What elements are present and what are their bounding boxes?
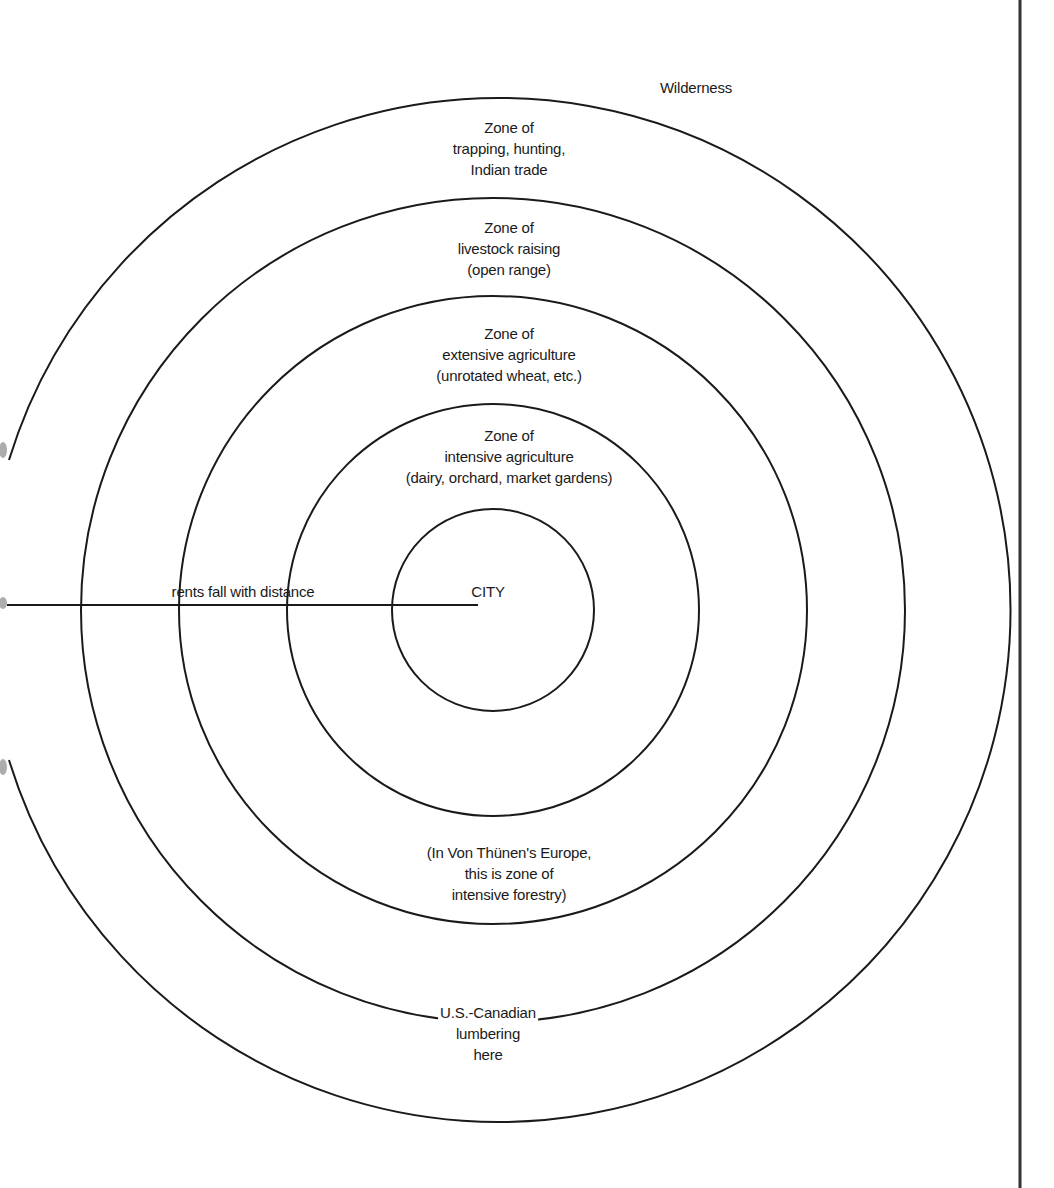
rents-axis-label: rents fall with distance [172,581,315,602]
lumbering-line-1: U.S.-Canadian [438,1002,538,1023]
livestock-zone-label: Zone of livestock raising (open range) [458,217,560,280]
extensive-zone-line-1: Zone of [436,323,581,344]
trapping-zone-label: Zone of trapping, hunting, Indian trade [453,117,565,180]
livestock-zone-line-1: Zone of [458,217,560,238]
trapping-zone-line-3: Indian trade [453,159,565,180]
trapping-zone-line-1: Zone of [453,117,565,138]
wilderness-label: Wilderness [660,77,732,98]
extensive-zone-label: Zone of extensive agriculture (unrotated… [436,323,581,386]
forestry-note-line-3: intensive forestry) [427,884,592,905]
livestock-zone-line-2: livestock raising [458,238,560,259]
trapping-zone-line-2: trapping, hunting, [453,138,565,159]
forestry-note-line-2: this is zone of [427,863,592,884]
city-label: CITY [471,581,504,602]
left-edge-mark-top [0,442,7,458]
lumbering-line-2: lumbering [438,1023,538,1044]
city-ring [392,509,594,711]
extensive-agriculture-ring [179,296,807,924]
intensive-zone-label: Zone of intensive agriculture (dairy, or… [406,425,613,488]
intensive-zone-line-2: intensive agriculture [406,446,613,467]
livestock-zone-line-3: (open range) [458,259,560,280]
intensive-zone-line-1: Zone of [406,425,613,446]
left-edge-mark-mid [0,597,7,609]
lumbering-line-3: here [438,1044,538,1065]
left-edge-mark-bottom [0,759,7,775]
intensive-zone-line-3: (dairy, orchard, market gardens) [406,467,613,488]
forestry-note-label: (In Von Thünen's Europe, this is zone of… [427,842,592,905]
forestry-note-line-1: (In Von Thünen's Europe, [427,842,592,863]
extensive-zone-line-2: extensive agriculture [436,344,581,365]
extensive-zone-line-3: (unrotated wheat, etc.) [436,365,581,386]
lumbering-label: U.S.-Canadian lumbering here [438,1002,538,1065]
